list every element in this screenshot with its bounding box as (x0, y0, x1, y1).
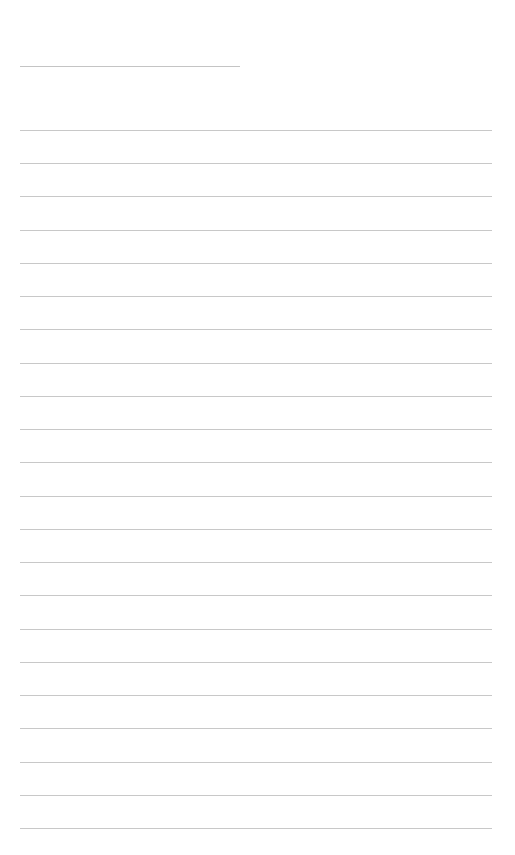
ruled-line (20, 629, 492, 630)
ruled-line (20, 496, 492, 497)
ruled-line (20, 562, 492, 563)
ruled-line (20, 595, 492, 596)
ruled-line (20, 163, 492, 164)
ruled-line (20, 196, 492, 197)
ruled-line (20, 363, 492, 364)
lined-page (0, 0, 515, 855)
ruled-line (20, 263, 492, 264)
ruled-line (20, 130, 492, 131)
ruled-line (20, 329, 492, 330)
ruled-line (20, 762, 492, 763)
title-line (20, 66, 240, 67)
ruled-line (20, 695, 492, 696)
ruled-line (20, 529, 492, 530)
ruled-line (20, 429, 492, 430)
ruled-line (20, 230, 492, 231)
ruled-line (20, 828, 492, 829)
ruled-line (20, 728, 492, 729)
ruled-line (20, 296, 492, 297)
ruled-line (20, 662, 492, 663)
ruled-line (20, 795, 492, 796)
ruled-line (20, 396, 492, 397)
ruled-line (20, 462, 492, 463)
